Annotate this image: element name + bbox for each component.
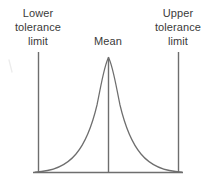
upper-tolerance-limit-label: Upper tolerance limit (140, 6, 212, 48)
mean-label: Mean (78, 34, 138, 48)
lower-tolerance-limit-label-line3: limit (0, 34, 76, 48)
upper-tolerance-limit-label-line2: tolerance (140, 20, 212, 34)
lower-tolerance-limit-label: Lower tolerance limit (0, 6, 76, 48)
upper-tolerance-limit-label-line1: Upper (140, 6, 212, 20)
lower-tolerance-limit-label-line1: Lower (0, 6, 76, 20)
stray-mark (9, 60, 12, 72)
tolerance-distribution-figure: Lower tolerance limit Upper tolerance li… (0, 0, 212, 191)
upper-tolerance-limit-label-line3: limit (140, 34, 212, 48)
mean-label-text: Mean (78, 34, 138, 48)
lower-tolerance-limit-label-line2: tolerance (0, 20, 76, 34)
